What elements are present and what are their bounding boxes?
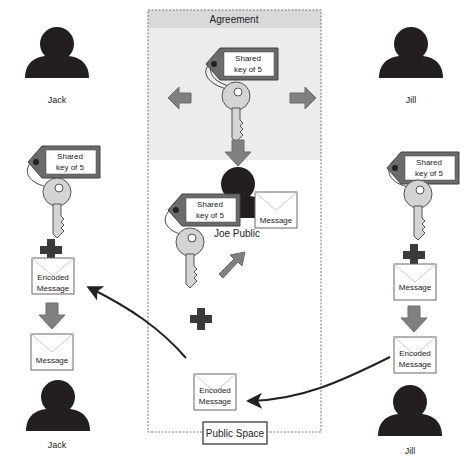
jill-encoded-line1: Encoded [399, 349, 431, 358]
jack-top-label: Jack [48, 95, 67, 105]
curve-arrow-to-public [250, 357, 390, 401]
tag-label-line2: key of 5 [234, 65, 263, 74]
jill-bottom-label: Jill [405, 446, 416, 456]
diagram-canvas: Agreement Shared key of 5 Shared key of … [0, 0, 467, 467]
jill-tag-label-line2: key of 5 [415, 169, 444, 178]
jill-encoded-line2: Message [399, 360, 432, 369]
jack-encoded-line2: Message [37, 284, 70, 293]
public-space-label: Public Space [206, 428, 265, 439]
public-encoded-line1: Encoded [199, 386, 231, 395]
jill-top-person-icon [379, 27, 443, 78]
jill-bottom-person-icon [378, 385, 442, 436]
jack-encoded-line1: Encoded [37, 273, 69, 282]
jack-bottom-label: Jack [48, 440, 67, 450]
jack-arrow-down-icon [39, 303, 65, 329]
jill-arrow-down-icon [401, 306, 427, 332]
curve-arrow-to-jack [90, 288, 186, 358]
jack-tag-label-line2: key of 5 [56, 163, 85, 172]
joe-public-label: Joe Public [214, 228, 260, 239]
jill-plus-icon [403, 244, 425, 266]
arrow-diagonal-icon [219, 252, 245, 278]
jack-top-person-icon [25, 27, 89, 78]
plus-icon [190, 308, 212, 330]
joe-tag-label-line1: Shared [197, 200, 223, 209]
tag-label-line1: Shared [235, 54, 261, 63]
jill-top-label: Jill [406, 95, 417, 105]
jack-tag-label-line1: Shared [57, 152, 83, 161]
public-encoded-line2: Message [199, 397, 232, 406]
jill-message-label: Message [399, 283, 432, 292]
joe-message-label: Message [260, 216, 293, 225]
agreement-title: Agreement [210, 14, 259, 25]
jack-bottom-person-icon [26, 380, 90, 431]
jill-message-envelope-icon [394, 264, 436, 300]
jill-tag-label-line1: Shared [416, 158, 442, 167]
joe-tag-label-line2: key of 5 [196, 211, 225, 220]
jack-decoded-label: Message [36, 356, 69, 365]
